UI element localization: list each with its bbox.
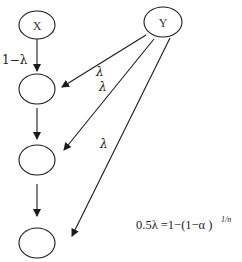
node-n2 [19,145,55,175]
formula: 0.5λ =1−(1−α ) 1/n [136,215,231,232]
formula-exponent: 1/n [221,215,231,224]
edge-label-y-n3: λ [99,137,108,151]
edge-label-x-n1: 1−λ [2,53,28,67]
diagram-canvas: X Y 1−λ λ λ λ 0.5λ =1−(1−α ) 1/n [0,0,242,262]
formula-main: 0.5λ =1−(1−α ) [136,218,212,232]
edge-y-to-n3 [72,38,170,236]
edge-label-y-n2: λ [98,80,107,94]
node-y-label: Y [159,16,168,30]
edge-label-y-n1: λ [95,65,104,79]
node-n1 [19,74,55,104]
node-x-label: X [33,19,42,33]
node-x: X [19,11,55,39]
node-n3 [19,228,55,258]
edge-y-to-n2 [64,39,154,150]
node-y: Y [144,7,182,37]
